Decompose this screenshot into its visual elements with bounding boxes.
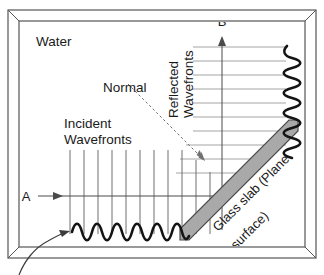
ray-label-a: A [22, 189, 31, 204]
label-reflected-line1: Reflected [166, 61, 181, 118]
label-incident-line1: Incident [64, 116, 112, 131]
label-water: Water [36, 34, 72, 49]
label-reflected-line2: Wavefronts [181, 50, 196, 118]
diagram-canvas: A B Water Normal Incident Wavefronts Ref… [0, 0, 324, 275]
label-incident-line2: Wavefronts [64, 132, 132, 147]
wave-reflection-diagram: A B Water Normal Incident Wavefronts Ref… [0, 0, 324, 275]
label-normal: Normal [103, 80, 147, 95]
